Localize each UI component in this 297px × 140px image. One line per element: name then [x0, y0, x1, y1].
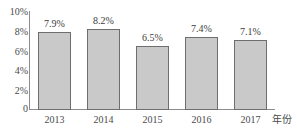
bar-chart: 10% 8% 6% 4% 2% 0 7.9% 8.2% 6.5% 7.4% 7.… [0, 0, 297, 140]
bar [185, 37, 218, 110]
bar-slot: 8.2% [87, 11, 120, 110]
y-axis-tick-label: 2% [0, 86, 28, 96]
bar [136, 46, 169, 110]
bar-value-label: 8.2% [93, 16, 114, 26]
y-axis-tick-label: 10% [0, 7, 28, 17]
bar-slot: 7.4% [185, 11, 218, 110]
y-axis-tick-label: 6% [0, 47, 28, 57]
bar-slot: 6.5% [136, 11, 169, 110]
bar [38, 32, 71, 110]
x-axis-tick-label: 2013 [30, 114, 79, 126]
bar-value-label: 7.9% [44, 19, 65, 29]
x-axis-title: 年份 [272, 114, 292, 126]
y-axis-tick-label: 4% [0, 66, 28, 76]
bar-value-label: 7.4% [191, 24, 212, 34]
bar-value-label: 7.1% [240, 27, 261, 37]
bar-slot: 7.1% [234, 11, 267, 110]
x-axis-tick-label: 2015 [128, 114, 177, 126]
plot-area: 7.9% 8.2% 6.5% 7.4% 7.1% [30, 11, 275, 110]
bar [234, 40, 267, 110]
x-axis-tick-label: 2014 [79, 114, 128, 126]
x-axis-tick-labels: 2013 2014 2015 2016 2017 [30, 114, 275, 130]
x-axis-tick-label: 2017 [226, 114, 275, 126]
bar-slot: 7.9% [38, 11, 71, 110]
y-axis-tick-labels: 10% 8% 6% 4% 2% 0 [0, 0, 28, 140]
y-axis-tick-label: 0 [0, 104, 28, 114]
x-axis-tick-label: 2016 [177, 114, 226, 126]
y-axis-tick-label: 8% [0, 27, 28, 37]
bar-value-label: 6.5% [142, 33, 163, 43]
bar [87, 29, 120, 110]
